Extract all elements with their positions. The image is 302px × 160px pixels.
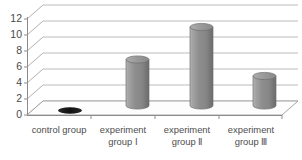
category-label-control-group: control group bbox=[32, 124, 87, 135]
bar-experiment-group-1[interactable] bbox=[126, 56, 149, 109]
bar-control-group[interactable] bbox=[58, 107, 82, 113]
y-tick-label: 6 bbox=[16, 60, 22, 72]
y-axis-tick-labels: 12 10 8 6 4 2 0 bbox=[10, 12, 22, 120]
y-tick-label: 4 bbox=[16, 76, 22, 88]
y-tick-label: 0 bbox=[16, 108, 22, 120]
grid-depth-connectors bbox=[27, 5, 43, 115]
bar-chart-3d: 12 10 8 6 4 2 0 bbox=[0, 0, 302, 160]
category-label-experiment-group-1-line2: group Ⅰ bbox=[108, 136, 138, 147]
category-label-experiment-group-3: experiment bbox=[228, 124, 275, 135]
control-group-marker bbox=[58, 107, 82, 113]
category-label-experiment-group-3-line2: group Ⅲ bbox=[235, 136, 268, 147]
bar-experiment-group-3[interactable] bbox=[253, 72, 276, 109]
category-label-experiment-group-2-line2: group Ⅱ bbox=[172, 136, 203, 147]
y-tick-label: 10 bbox=[10, 28, 22, 40]
x-axis bbox=[27, 115, 282, 119]
y-tick-label: 12 bbox=[10, 12, 22, 24]
category-label-experiment-group-1: experiment bbox=[100, 124, 147, 135]
x-axis-category-labels: control group experiment group Ⅰ experim… bbox=[32, 124, 275, 147]
chart-container: 12 10 8 6 4 2 0 bbox=[0, 0, 302, 160]
category-label-experiment-group-2: experiment bbox=[164, 124, 211, 135]
y-axis bbox=[24, 17, 27, 115]
y-tick-label: 8 bbox=[16, 44, 22, 56]
bar-experiment-group-2[interactable] bbox=[190, 23, 213, 109]
y-tick-label: 2 bbox=[16, 92, 22, 104]
